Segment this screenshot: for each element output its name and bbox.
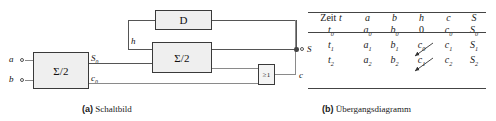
figure-root: a b Σ/2 S0 c0 h D Σ/2 <box>0 0 496 121</box>
circuit-diagram: a b Σ/2 S0 c0 h D Σ/2 <box>0 0 248 121</box>
caption-b-tag: (b) <box>322 104 334 114</box>
signal-label-b: b <box>9 74 14 84</box>
signal-label-h: h <box>131 36 136 46</box>
input-pin-b <box>20 78 24 82</box>
caption-b: (b) Übergangsdiagramm <box>322 104 411 114</box>
signal-label-a: a <box>9 54 14 64</box>
wire-adder2-carry-out <box>212 68 258 69</box>
caption-a-text: Schaltbild <box>95 104 132 114</box>
wire-S0-run <box>89 63 153 64</box>
transition-arrows <box>308 12 486 90</box>
caption-a-tag: (a) <box>82 104 93 114</box>
transition-arrow-c0-h1 <box>415 43 433 56</box>
caption-b-text: Übergangsdiagramm <box>336 104 411 114</box>
wire-h-top <box>128 20 156 21</box>
output-pin-S <box>300 47 304 51</box>
input-pin-a <box>20 58 24 62</box>
output-label-c: c <box>299 70 303 80</box>
block-label-or: ≥1 <box>263 71 270 79</box>
wire-h-into-adder2 <box>128 49 153 50</box>
wire-adder2-sum-out <box>212 49 297 50</box>
block-d-flipflop[interactable]: D <box>155 10 212 30</box>
transition-table-wrap: Zeit t a b h c S t0 a0 b0 0 c0 S0 <box>308 12 486 90</box>
block-label-d: D <box>180 14 188 26</box>
transition-arrow-c1-h2 <box>415 58 433 71</box>
caption-a: (a) Schaltbild <box>82 104 132 114</box>
wire-h-vertical <box>128 20 129 50</box>
wire-or-out <box>275 74 296 75</box>
block-half-adder-2[interactable]: Σ/2 <box>152 42 212 73</box>
wire-d-out <box>212 20 297 21</box>
output-node-S <box>294 47 299 52</box>
block-or-gate[interactable]: ≥1 <box>258 64 275 85</box>
block-label-half-adder-2: Σ/2 <box>174 52 190 64</box>
block-half-adder-1[interactable]: Σ/2 <box>33 52 89 89</box>
block-label-half-adder-1: Σ/2 <box>53 65 69 77</box>
wire-c0-run <box>89 83 259 84</box>
